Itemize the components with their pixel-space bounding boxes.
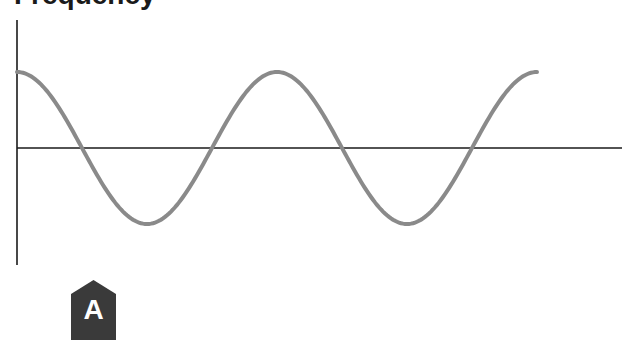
label-badge: A xyxy=(71,280,116,340)
badge-label: A xyxy=(71,294,116,326)
